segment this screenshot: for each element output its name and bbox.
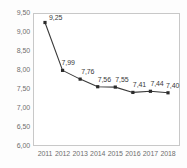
- data-point-label: 7,76: [81, 68, 94, 76]
- y-tick-label: 6,50: [0, 123, 30, 131]
- y-tick-label: 9,50: [0, 9, 30, 17]
- line-chart: 9,509,008,508,007,507,006,506,00 9,257,9…: [0, 0, 187, 168]
- x-axis: 20112012201320142015201620172018: [33, 150, 180, 164]
- data-point-label: 7,40: [166, 82, 179, 90]
- y-tick-label: 8,00: [0, 66, 30, 74]
- data-point-label: 7,99: [62, 59, 75, 67]
- y-axis: 9,509,008,508,007,507,006,506,00: [0, 13, 30, 146]
- data-point-label: 7,41: [133, 81, 146, 89]
- y-tick-label: 8,50: [0, 47, 30, 55]
- data-point-label: 7,44: [150, 80, 163, 88]
- y-tick-label: 7,00: [0, 104, 30, 112]
- data-point-label: 9,25: [49, 14, 62, 22]
- x-tick-label: 2018: [157, 150, 179, 158]
- y-tick-label: 7,50: [0, 85, 30, 93]
- data-point-label: 7,55: [115, 76, 128, 84]
- data-point-label: 7,56: [98, 76, 111, 84]
- y-tick-label: 9,00: [0, 28, 30, 36]
- y-tick-label: 6,00: [0, 142, 30, 150]
